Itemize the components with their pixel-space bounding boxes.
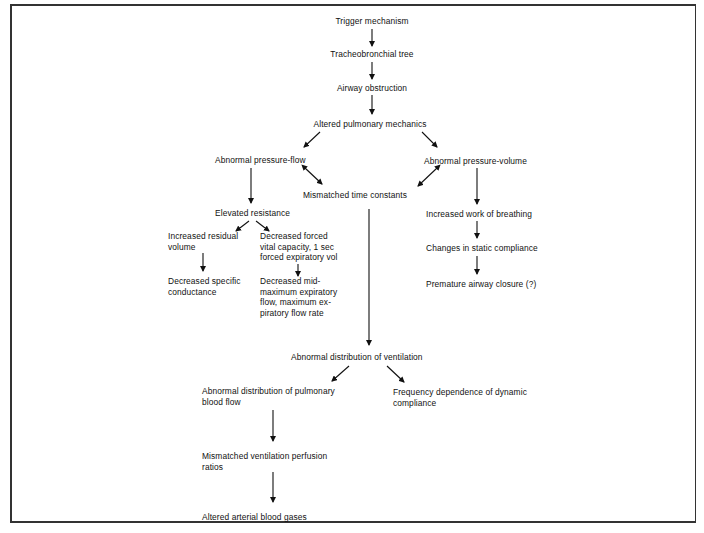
arrow-mechanics-pressureflow bbox=[304, 132, 320, 147]
node-increased-work-of-breathing: Increased work of breathing bbox=[426, 209, 532, 220]
node-elevated-resistance: Elevated resistance bbox=[215, 208, 290, 219]
node-mismatched-time-constants: Mismatched time constants bbox=[303, 190, 407, 201]
node-increased-residual-volume: Increased residual volume bbox=[168, 231, 238, 252]
arrow-resistance-fvc bbox=[256, 221, 269, 231]
node-abnormal-pressure-volume: Abnormal pressure-volume bbox=[424, 156, 527, 167]
arrow-pressurevolume-timeconstants bbox=[418, 168, 437, 186]
node-abnormal-distribution-ventilation: Abnormal distribution of ventilation bbox=[291, 352, 423, 363]
arrow-layer bbox=[0, 0, 704, 533]
node-trigger-mechanism: Trigger mechanism bbox=[335, 16, 408, 27]
arrow-pressureflow-timeconstants bbox=[305, 168, 322, 184]
node-decreased-specific-conductance: Decreased specific conductance bbox=[168, 276, 241, 297]
arrow-resistance-residual bbox=[236, 221, 249, 231]
node-mismatched-ventilation-perfusion: Mismatched ventilation perfusion ratios bbox=[202, 451, 327, 472]
node-changes-static-compliance: Changes in static compliance bbox=[426, 243, 538, 254]
node-premature-airway-closure: Premature airway closure (?) bbox=[426, 279, 536, 290]
node-tracheobronchial-tree: Tracheobronchial tree bbox=[330, 49, 413, 60]
arrow-mechanics-pressurevolume bbox=[422, 132, 437, 147]
arrow-ventilation-blood bbox=[332, 366, 349, 381]
node-altered-pulmonary-mechanics: Altered pulmonary mechanics bbox=[313, 119, 426, 130]
node-decreased-mid-maximum-expiratory-flow: Decreased mid- maximum expiratory flow, … bbox=[260, 276, 337, 318]
node-airway-obstruction: Airway obstruction bbox=[337, 83, 407, 94]
node-frequency-dependence-compliance: Frequency dependence of dynamic complian… bbox=[393, 387, 527, 408]
node-abnormal-distribution-blood-flow: Abnormal distribution of pulmonary blood… bbox=[202, 386, 335, 407]
node-altered-arterial-blood-gases: Altered arterial blood gases bbox=[202, 512, 307, 523]
node-abnormal-pressure-flow: Abnormal pressure-flow bbox=[215, 155, 306, 166]
arrow-ventilation-frequency bbox=[387, 366, 404, 382]
node-decreased-forced-vital-capacity: Decreased forced vital capacity, 1 sec f… bbox=[260, 231, 338, 263]
